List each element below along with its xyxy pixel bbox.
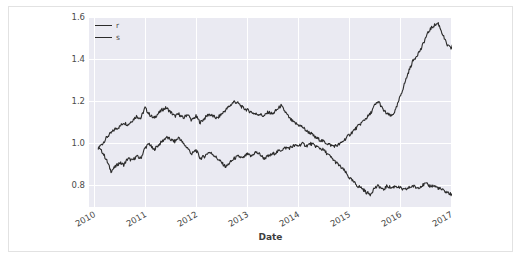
x-tick-label: 2014 (278, 210, 301, 228)
y-axis-tick-labels: 1.6 1.4 1.2 1.0 0.8 (55, 17, 85, 207)
legend-entry-r: r (95, 20, 120, 31)
figure: 1.6 1.4 1.2 1.0 0.8 r (0, 0, 521, 259)
legend-label: r (116, 22, 119, 30)
y-tick-label: 1.2 (59, 97, 85, 106)
plot-area: r s (89, 17, 452, 207)
series-plot (89, 17, 452, 207)
series-line-r (98, 23, 452, 149)
y-tick-label: 1.6 (59, 13, 85, 22)
x-tick-label: 2015 (329, 210, 352, 228)
x-tick-label: 2011 (125, 210, 148, 228)
x-tick-label: 2017 (431, 210, 454, 228)
legend: r s (95, 20, 120, 44)
y-tick-label: 1.0 (59, 139, 85, 148)
legend-entry-s: s (95, 32, 120, 43)
x-tick-label: 2012 (176, 210, 199, 228)
x-axis-label: Date (89, 233, 452, 242)
x-tick-label: 2016 (380, 210, 403, 228)
legend-label: s (116, 34, 120, 42)
legend-swatch-icon (95, 25, 112, 26)
y-tick-label: 1.4 (59, 55, 85, 64)
series-line-s (98, 136, 452, 196)
y-tick-label: 0.8 (59, 181, 85, 190)
legend-swatch-icon (95, 37, 112, 38)
x-tick-label: 2013 (227, 210, 250, 228)
